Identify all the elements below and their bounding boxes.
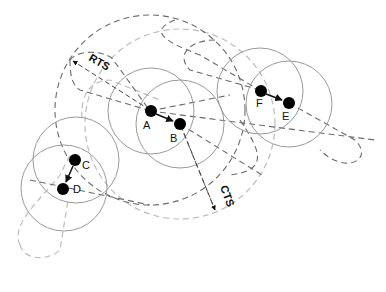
- node-e: [283, 97, 295, 109]
- node-labels: A B C D F E: [73, 97, 289, 195]
- wireless-network-diagram: RTS CTS A B C D F E: [0, 0, 386, 292]
- node-b: [174, 118, 186, 130]
- node-label-c: C: [82, 159, 90, 171]
- node-label-a: A: [143, 119, 151, 131]
- arrow-f-to-e: [266, 94, 282, 100]
- node-label-e: E: [282, 110, 289, 122]
- arrow-a-to-b: [156, 114, 173, 121]
- node-a: [145, 105, 157, 117]
- arrow-c-to-d: [66, 166, 73, 182]
- node-f: [255, 85, 267, 97]
- rts-label: RTS: [87, 51, 112, 72]
- node-c: [69, 154, 81, 166]
- cts-range-region: [18, 29, 275, 258]
- cts-label: CTS: [218, 184, 237, 209]
- node-label-b: B: [170, 132, 177, 144]
- cts-arrow: CTS: [181, 126, 237, 210]
- node-d: [57, 183, 69, 195]
- node-label-f: F: [256, 97, 263, 109]
- node-label-d: D: [73, 183, 81, 195]
